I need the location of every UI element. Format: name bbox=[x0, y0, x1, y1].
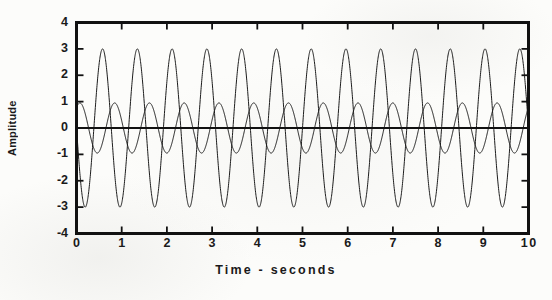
x-tick-label-1: 1 bbox=[107, 236, 137, 250]
x-axis-title: Time - seconds bbox=[0, 263, 552, 277]
y-tick-label-wrap: -1 bbox=[36, 146, 68, 160]
y-tick-label-wrap: 1 bbox=[36, 94, 68, 108]
y-tick-label-wrap: 0 bbox=[36, 120, 68, 134]
y-tick-label-wrap: -2 bbox=[36, 173, 68, 187]
x-tick-label-wrap: 1 bbox=[107, 236, 137, 252]
x-tick-label-3: 3 bbox=[197, 236, 227, 250]
x-tick-label-wrap: 2 bbox=[152, 236, 182, 252]
x-tick-label-wrap: 5 bbox=[288, 236, 318, 252]
x-tick-label-wrap: 6 bbox=[333, 236, 363, 252]
plot-canvas bbox=[0, 0, 552, 300]
y-tick-label-wrap: 2 bbox=[36, 67, 68, 81]
x-tick-label-4: 4 bbox=[242, 236, 272, 250]
x-tick-label-7: 7 bbox=[378, 236, 408, 250]
y-tick-label--2: -2 bbox=[36, 173, 68, 187]
y-axis-title: Amplitude bbox=[3, 78, 21, 178]
x-tick-label-wrap: 8 bbox=[423, 236, 453, 252]
x-tick-label-2: 2 bbox=[152, 236, 182, 250]
chart-figure: Amplitude Time - seconds 43210-1-2-3-4 0… bbox=[0, 0, 552, 300]
y-tick-label-3: 3 bbox=[36, 41, 68, 55]
x-tick-label-wrap: 3 bbox=[197, 236, 227, 252]
x-tick-label-wrap: 9 bbox=[468, 236, 498, 252]
y-tick-label-wrap: 3 bbox=[36, 41, 68, 55]
y-tick-label--1: -1 bbox=[36, 146, 68, 160]
y-tick-label-0: 0 bbox=[36, 120, 68, 134]
x-tick-label-10: 10 bbox=[514, 236, 544, 250]
x-tick-label-wrap: 4 bbox=[242, 236, 272, 252]
y-tick-label-4: 4 bbox=[36, 15, 68, 29]
y-tick-label--3: -3 bbox=[36, 199, 68, 213]
y-tick-label-wrap: -3 bbox=[36, 199, 68, 213]
y-tick-label-1: 1 bbox=[36, 94, 68, 108]
x-tick-label-wrap: 10 bbox=[514, 236, 544, 252]
x-tick-label-6: 6 bbox=[333, 236, 363, 250]
y-tick-label-wrap: 4 bbox=[36, 15, 68, 29]
x-tick-label-wrap: 7 bbox=[378, 236, 408, 252]
x-tick-label-8: 8 bbox=[423, 236, 453, 250]
x-tick-label-wrap: 0 bbox=[62, 236, 92, 252]
x-tick-label-9: 9 bbox=[468, 236, 498, 250]
x-tick-label-0: 0 bbox=[62, 236, 92, 250]
x-tick-label-5: 5 bbox=[288, 236, 318, 250]
y-tick-label-2: 2 bbox=[36, 67, 68, 81]
